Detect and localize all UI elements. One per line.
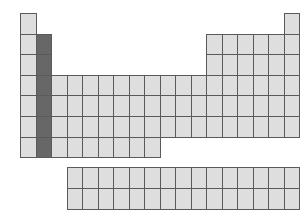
element-cell — [206, 54, 223, 76]
lanthanide-cell — [191, 167, 207, 189]
element-cell — [82, 116, 99, 138]
lanthanide-cell — [268, 167, 285, 189]
element-cell — [129, 75, 145, 96]
element-cell — [67, 116, 83, 138]
element-cell — [253, 54, 269, 76]
element-cell — [82, 95, 99, 117]
element-cell — [51, 137, 68, 158]
element-cell — [113, 75, 130, 96]
element-cell — [175, 95, 192, 117]
element-cell — [237, 75, 254, 96]
element-cell — [20, 54, 37, 76]
actinide-cell — [98, 188, 114, 210]
element-cell — [222, 75, 238, 96]
actinide-cell — [284, 188, 300, 210]
element-cell — [253, 34, 269, 55]
element-cell — [268, 54, 285, 76]
lanthanide-cell — [222, 167, 238, 189]
element-cell — [284, 75, 300, 96]
element-cell — [98, 75, 114, 96]
element-cell — [51, 95, 68, 117]
actinide-cell — [82, 188, 99, 210]
lanthanide-cell — [253, 167, 269, 189]
element-cell — [268, 34, 285, 55]
lanthanide-cell — [160, 167, 176, 189]
element-cell — [20, 116, 37, 138]
element-cell — [20, 95, 37, 117]
element-cell — [67, 137, 83, 158]
actinide-cell — [222, 188, 238, 210]
element-cell — [206, 95, 223, 117]
element-cell — [67, 95, 83, 117]
element-cell — [129, 95, 145, 117]
highlighted-element-cell — [36, 116, 52, 138]
element-cell — [51, 75, 68, 96]
element-cell — [144, 95, 161, 117]
element-cell — [191, 75, 207, 96]
element-cell — [129, 116, 145, 138]
actinide-cell — [253, 188, 269, 210]
element-cell — [20, 75, 37, 96]
element-cell — [284, 116, 300, 138]
actinide-cell — [144, 188, 161, 210]
actinide-cell — [237, 188, 254, 210]
lanthanide-cell — [98, 167, 114, 189]
actinide-cell — [67, 188, 83, 210]
element-cell — [82, 137, 99, 158]
element-cell — [206, 34, 223, 55]
actinide-cell — [160, 188, 176, 210]
element-cell — [160, 75, 176, 96]
element-cell — [284, 95, 300, 117]
element-cell — [67, 75, 83, 96]
element-cell — [253, 75, 269, 96]
lanthanide-cell — [175, 167, 192, 189]
element-cell — [284, 13, 300, 35]
element-cell — [268, 95, 285, 117]
element-cell — [20, 137, 37, 158]
lanthanide-cell — [113, 167, 130, 189]
element-cell — [191, 95, 207, 117]
highlighted-element-cell — [36, 34, 52, 55]
element-cell — [237, 54, 254, 76]
element-cell — [222, 95, 238, 117]
element-cell — [144, 116, 161, 138]
element-cell — [222, 116, 238, 138]
lanthanide-cell — [129, 167, 145, 189]
element-cell — [98, 95, 114, 117]
element-cell — [284, 34, 300, 55]
element-cell — [98, 116, 114, 138]
element-cell — [222, 54, 238, 76]
element-cell — [144, 137, 161, 158]
element-cell — [206, 75, 223, 96]
actinide-cell — [191, 188, 207, 210]
element-cell — [253, 116, 269, 138]
element-cell — [237, 116, 254, 138]
element-cell — [175, 75, 192, 96]
actinide-cell — [129, 188, 145, 210]
lanthanide-cell — [67, 167, 83, 189]
element-cell — [113, 95, 130, 117]
highlighted-element-cell — [36, 137, 52, 158]
element-cell — [191, 116, 207, 138]
element-cell — [253, 95, 269, 117]
element-cell — [113, 137, 130, 158]
lanthanide-cell — [206, 167, 223, 189]
lanthanide-cell — [284, 167, 300, 189]
element-cell — [113, 116, 130, 138]
element-cell — [98, 137, 114, 158]
actinide-cell — [175, 188, 192, 210]
highlighted-element-cell — [36, 75, 52, 96]
element-cell — [82, 75, 99, 96]
element-cell — [284, 54, 300, 76]
element-cell — [160, 95, 176, 117]
element-cell — [160, 116, 176, 138]
element-cell — [51, 116, 68, 138]
element-cell — [20, 34, 37, 55]
element-cell — [129, 137, 145, 158]
periodic-table — [0, 0, 307, 219]
highlighted-element-cell — [36, 95, 52, 117]
element-cell — [268, 116, 285, 138]
lanthanide-cell — [144, 167, 161, 189]
lanthanide-cell — [237, 167, 254, 189]
element-cell — [237, 34, 254, 55]
